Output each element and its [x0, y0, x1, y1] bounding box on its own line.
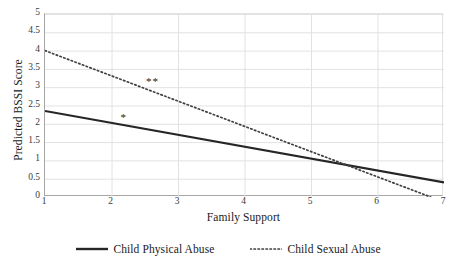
legend-entry[interactable]: Child Sexual Abuse	[250, 243, 380, 255]
y-axis-tick-label: 3.5	[18, 63, 44, 73]
significance-marker: **	[146, 76, 159, 87]
legend-label: Child Physical Abuse	[113, 243, 214, 255]
x-axis-tick-label: 5	[308, 197, 313, 207]
y-axis-tick-label: 4	[18, 45, 44, 55]
legend-dotted-line-icon	[250, 244, 282, 254]
y-axis-tick-label: 4.5	[18, 27, 44, 37]
y-axis-tick-label: 2	[18, 118, 44, 128]
x-axis-tick-label: 1	[42, 197, 47, 207]
y-axis-tick-label: 0	[18, 191, 44, 201]
y-axis-tick-label: 2.5	[18, 100, 44, 110]
x-axis-tick-label: 7	[441, 197, 446, 207]
legend-entry[interactable]: Child Physical Abuse	[76, 243, 214, 255]
chart-figure: Predicted BSSI Score 00.511.522.533.544.…	[0, 0, 457, 266]
plot-area	[44, 13, 443, 196]
y-axis-tick-label: 1.5	[18, 136, 44, 146]
legend-solid-line-icon	[76, 244, 108, 254]
x-axis-tick-label: 3	[175, 197, 180, 207]
significance-marker: *	[121, 112, 128, 123]
y-axis-tick-label: 3	[18, 81, 44, 91]
y-axis-tick-label: 5	[18, 8, 44, 18]
x-axis-tick-label: 4	[241, 197, 246, 207]
legend-label: Child Sexual Abuse	[287, 243, 380, 255]
x-axis-title: Family Support	[44, 211, 443, 223]
plot-canvas	[45, 14, 444, 197]
y-axis-tick-label: 1	[18, 155, 44, 165]
y-axis-tick-label: 0.5	[18, 173, 44, 183]
chart-legend: Child Physical AbuseChild Sexual Abuse	[0, 238, 457, 260]
y-axis-tick-labels: 00.511.522.533.544.55	[18, 0, 44, 266]
x-axis-tick-label: 2	[108, 197, 113, 207]
x-axis-tick-label: 6	[374, 197, 379, 207]
